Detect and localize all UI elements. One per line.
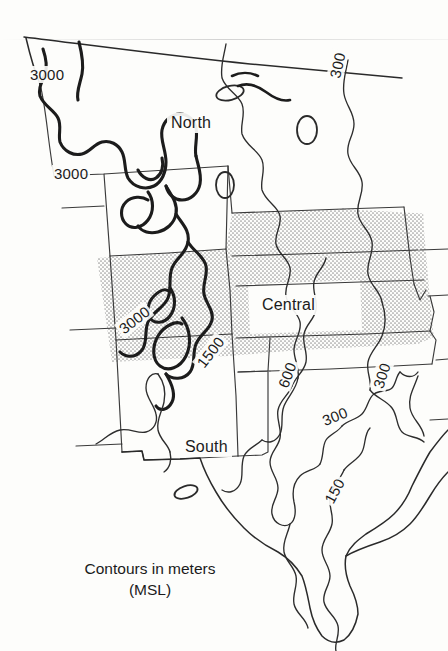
contour-150 — [322, 428, 370, 651]
map-graphic — [0, 0, 448, 651]
region-label-south: South — [181, 437, 232, 457]
map-caption: Contours in meters (MSL) — [40, 559, 260, 601]
contour-label-3000-nw-lower: 3000 — [52, 165, 90, 182]
contour-label-3000-nw-upper: 3000 — [28, 66, 66, 83]
region-label-north: North — [167, 113, 215, 133]
contour-3000 — [39, 42, 212, 409]
region-label-central: Central — [258, 295, 319, 315]
contour-map-figure: 3000 3000 3000 300 1500 600 300 300 150 … — [0, 0, 448, 651]
caption-line-1: Contours in meters — [40, 559, 260, 580]
caption-line-2: (MSL) — [40, 580, 260, 601]
